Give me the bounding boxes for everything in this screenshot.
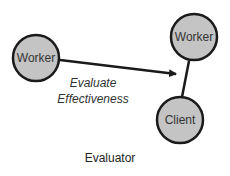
edge-label-evaluate: Evaluate — [70, 76, 117, 90]
client-node: Client — [157, 97, 203, 143]
worker-left-label: Worker — [17, 51, 55, 65]
worker-right-label: Worker — [175, 30, 213, 44]
evaluator-diagram: Worker Worker Client Evaluate Effectiven… — [0, 0, 230, 176]
client-label: Client — [165, 113, 196, 127]
worker-node-right: Worker — [171, 14, 217, 60]
diagram-caption: Evaluator — [85, 151, 136, 165]
connector-line — [182, 61, 189, 97]
worker-node-left: Worker — [13, 35, 59, 81]
edge-label-effectiveness: Effectiveness — [57, 92, 128, 106]
evaluate-arrow — [60, 60, 176, 74]
